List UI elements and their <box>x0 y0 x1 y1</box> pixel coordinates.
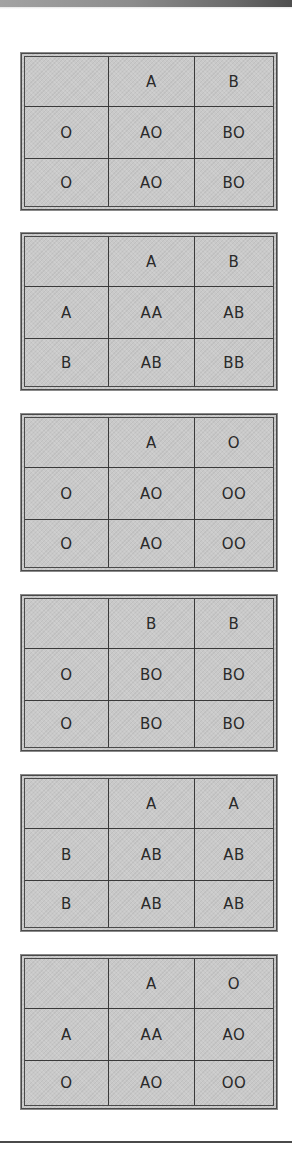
row-header: O <box>25 520 109 567</box>
genotype-cell: AO <box>109 159 195 206</box>
corner-cell <box>25 959 109 1009</box>
genotype-cell: AO <box>109 468 195 520</box>
row-header: O <box>25 701 109 747</box>
column-header: B <box>195 599 273 649</box>
column-header: B <box>195 57 273 107</box>
punnett-square-1: A B O AO BO O AO BO <box>21 53 277 210</box>
corner-cell <box>25 57 109 107</box>
row-header: O <box>25 107 109 159</box>
genotype-cell: AO <box>195 1009 273 1061</box>
column-header: B <box>195 237 273 287</box>
column-header: O <box>195 959 273 1009</box>
corner-cell <box>25 779 109 829</box>
row-header: O <box>25 468 109 520</box>
genotype-cell: BO <box>195 107 273 159</box>
genotype-cell: AB <box>109 339 195 386</box>
row-header: B <box>25 881 109 927</box>
row-header: O <box>25 159 109 206</box>
column-header: A <box>109 237 195 287</box>
row-header: O <box>25 649 109 701</box>
genotype-cell: BB <box>195 339 273 386</box>
corner-cell <box>25 418 109 468</box>
genotype-cell: BO <box>195 649 273 701</box>
genotype-cell: OO <box>195 1061 273 1105</box>
genotype-cell: AA <box>109 1009 195 1061</box>
genotype-cell: AB <box>109 829 195 881</box>
genotype-cell: AO <box>109 520 195 567</box>
genotype-cell: AB <box>195 881 273 927</box>
genotype-cell: AO <box>109 1061 195 1105</box>
corner-cell <box>25 599 109 649</box>
bottom-divider-rule <box>0 1141 292 1143</box>
top-gradient-band <box>0 0 292 7</box>
row-header: A <box>25 287 109 339</box>
genotype-cell: BO <box>109 701 195 747</box>
genotype-cell: BO <box>109 649 195 701</box>
row-header: A <box>25 1009 109 1061</box>
column-header: A <box>109 959 195 1009</box>
genotype-cell: BO <box>195 159 273 206</box>
column-header: A <box>109 57 195 107</box>
punnett-square-6: A O A AA AO O AO OO <box>21 955 277 1109</box>
row-header: B <box>25 829 109 881</box>
column-header: O <box>195 418 273 468</box>
row-header: O <box>25 1061 109 1105</box>
genotype-cell: AB <box>109 881 195 927</box>
genotype-cell: AO <box>109 107 195 159</box>
column-header: A <box>195 779 273 829</box>
punnett-square-5: A A B AB AB B AB AB <box>21 775 277 931</box>
genotype-cell: AA <box>109 287 195 339</box>
corner-cell <box>25 237 109 287</box>
genotype-cell: AB <box>195 829 273 881</box>
genotype-cell: OO <box>195 468 273 520</box>
row-header: B <box>25 339 109 386</box>
genotype-cell: AB <box>195 287 273 339</box>
punnett-square-4: B B O BO BO O BO BO <box>21 595 277 751</box>
genotype-cell: OO <box>195 520 273 567</box>
column-header: B <box>109 599 195 649</box>
column-header: A <box>109 779 195 829</box>
punnett-square-2: A B A AA AB B AB BB <box>21 233 277 390</box>
genotype-cell: BO <box>195 701 273 747</box>
punnett-square-3: A O O AO OO O AO OO <box>21 414 277 571</box>
column-header: A <box>109 418 195 468</box>
